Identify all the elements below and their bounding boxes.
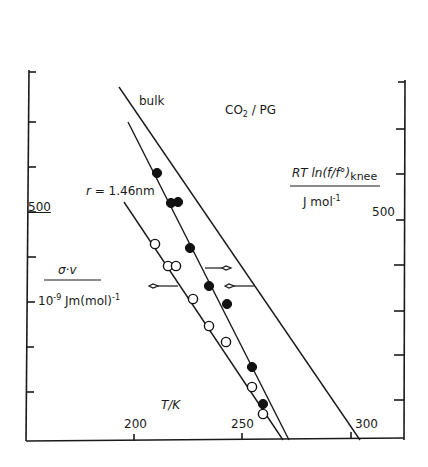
open-points — [150, 239, 267, 418]
right-axis-500-label: 500 — [372, 206, 395, 218]
filled-point — [152, 168, 161, 177]
left-den-unit: Jm(mol) — [61, 294, 112, 308]
open-point — [204, 321, 213, 330]
filled-point — [204, 281, 213, 290]
right-axis-label-numerator: RT ln(f/f°)knee — [292, 167, 377, 182]
diamond-pointer-icon — [222, 266, 231, 270]
fit-lines — [119, 87, 360, 440]
right-den-exp: -1 — [333, 194, 341, 203]
chart-title: CO2 / PG — [225, 104, 276, 119]
left-axis-label-denominator: 10-9 Jm(mol)-1 — [38, 294, 120, 307]
filled-point — [173, 197, 182, 206]
diamond-pointer-icon — [149, 284, 158, 288]
left-axis-500-label: 500 — [28, 201, 51, 213]
left-axis-label-numerator: σ·v — [58, 264, 77, 276]
filled-point — [247, 362, 256, 371]
x-axis-title: T/K — [161, 398, 180, 412]
right-axis-label-denominator: J mol-1 — [303, 195, 341, 208]
diamond-pointer-icon — [225, 284, 234, 288]
x-tick-label-200: 200 — [124, 418, 147, 430]
right-axis-ticks — [394, 82, 405, 400]
open-point — [171, 261, 180, 270]
filled-points — [152, 168, 267, 408]
right-den-unit: J mol — [303, 195, 333, 209]
open-point — [188, 294, 197, 303]
bulk-line — [119, 87, 360, 440]
bulk-label: bulk — [139, 95, 165, 107]
x-axis-label: T/K — [161, 399, 180, 411]
filled-point — [222, 299, 231, 308]
x-tick-label-250: 250 — [231, 418, 254, 430]
right-num-sub: knee — [350, 170, 377, 183]
left-axis — [26, 70, 29, 441]
right-num-rt: RT — [292, 166, 308, 180]
open-point — [221, 337, 230, 346]
right-num-ln: ln(f/f°) — [308, 166, 351, 180]
left-den-base: 10 — [38, 294, 53, 308]
open-point — [150, 239, 159, 248]
open-point — [258, 409, 267, 418]
chart-canvas — [0, 0, 428, 467]
x-tick-label-300: 300 — [355, 418, 378, 430]
title-rest: / PG — [248, 103, 276, 117]
filled-point — [185, 243, 194, 252]
x-axis — [26, 438, 404, 441]
r-label: r = 1.46nm — [86, 185, 155, 197]
filled-point — [258, 399, 267, 408]
left-den-exp2: -1 — [112, 293, 120, 302]
r-value: = 1.46nm — [91, 184, 155, 198]
title-co: CO — [225, 103, 243, 117]
open-point — [247, 382, 256, 391]
axes — [26, 70, 405, 441]
right-axis — [404, 80, 405, 440]
